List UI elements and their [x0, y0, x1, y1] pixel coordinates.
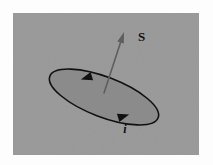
figure-root: S i	[0, 0, 213, 165]
physics-diagram-canvas: S i	[0, 0, 213, 165]
normal-vector-label: S	[138, 29, 145, 44]
